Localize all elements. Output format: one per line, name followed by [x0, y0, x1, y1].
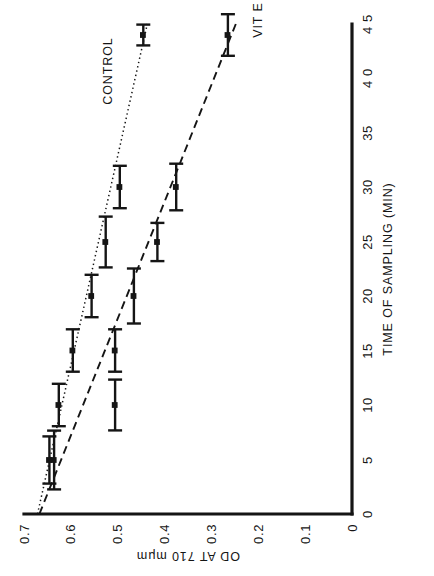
x-tick-label-35: 35: [360, 125, 375, 141]
x-tick-label-15: 15: [360, 343, 375, 359]
y-tick-label-0.6: 0.6: [63, 524, 78, 544]
control-series: [42, 25, 150, 484]
y-tick-label-0.1: 0.1: [298, 524, 313, 544]
data-point: [99, 217, 113, 268]
data-point: [52, 384, 66, 426]
axis-frame: [24, 24, 352, 514]
plot-svg: 0 5 10 15 20 25 30 35 4 0 4 5 0 0.1 0.2 …: [0, 0, 434, 576]
data-point: [85, 275, 99, 317]
x-tick-label-20: 20: [360, 288, 375, 304]
data-point: [150, 223, 164, 261]
series-label-vite: VIT E: [251, 2, 265, 38]
x-tick-label-10: 10: [360, 397, 375, 413]
x-tick-label-30: 30: [360, 179, 375, 195]
data-point: [66, 329, 80, 371]
data-point: [127, 269, 141, 324]
series-label-control: CONTROL: [101, 37, 115, 104]
data-point: [221, 14, 235, 56]
y-axis-ticks: 0 0.1 0.2 0.3 0.4 0.5 0.6 0.7: [17, 524, 360, 544]
data-point: [113, 166, 127, 208]
data-point: [136, 25, 150, 46]
data-point: [108, 329, 122, 371]
x-axis-ticks: 0 5 10 15 20 25 30 35 4 0 4 5: [360, 14, 375, 518]
y-tick-label-0.7: 0.7: [17, 524, 32, 544]
x-tick-label-5: 5: [360, 456, 375, 464]
x-tick-label-40: 4 0: [360, 68, 375, 88]
y-axis-title: OD AT 710 mμm: [136, 549, 240, 563]
y-tick-label-0.3: 0.3: [204, 524, 219, 544]
x-tick-label-45: 4 5: [360, 14, 375, 34]
x-tick-label-0: 0: [360, 510, 375, 518]
vite-series: [47, 14, 235, 489]
y-tick-label-0: 0: [345, 524, 360, 532]
rotated-plot-container: 0 5 10 15 20 25 30 35 4 0 4 5 0 0.1 0.2 …: [0, 0, 434, 576]
x-tick-label-25: 25: [360, 234, 375, 250]
data-point: [108, 380, 122, 431]
y-tick-label-0.2: 0.2: [251, 524, 266, 544]
y-tick-label-0.4: 0.4: [157, 524, 172, 544]
chart-figure: 0 5 10 15 20 25 30 35 4 0 4 5 0 0.1 0.2 …: [0, 0, 434, 576]
x-axis-title: TIME OF SAMPLING (MIN): [381, 182, 395, 355]
y-tick-label-0.5: 0.5: [110, 524, 125, 544]
